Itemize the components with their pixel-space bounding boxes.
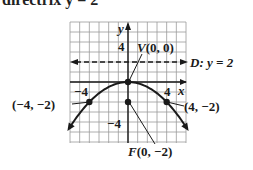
left-point bbox=[86, 99, 92, 105]
vertex-coords: (0, 0) bbox=[146, 40, 174, 55]
header-partial-text: directrix y = 2 bbox=[2, 0, 98, 9]
graph-svg bbox=[0, 0, 253, 170]
vertex-label: V(0, 0) bbox=[137, 41, 174, 54]
focus-prefix: F bbox=[128, 144, 137, 159]
vertex-leader bbox=[129, 54, 142, 81]
y-axis-label: y bbox=[118, 22, 124, 35]
parabola-diagram: directrix y = 2 y 4 V(0, 0) D: y = 2 −4 … bbox=[0, 0, 253, 170]
tick-y-neg: −4 bbox=[107, 117, 121, 130]
focus-label: F(0, −2) bbox=[128, 145, 172, 158]
focus-leader bbox=[129, 102, 155, 144]
directrix-right-arrow-icon bbox=[180, 59, 188, 65]
y-axis-arrow-icon bbox=[125, 22, 131, 30]
left-point-label: (−4, −2) bbox=[12, 98, 55, 111]
tick-x-neg: −4 bbox=[74, 85, 88, 98]
vertex-prefix: V bbox=[137, 40, 146, 55]
directrix-eq: y = 2 bbox=[207, 55, 233, 70]
directrix-prefix: D: bbox=[190, 55, 204, 70]
right-point bbox=[164, 99, 170, 105]
vertex-point bbox=[125, 79, 131, 85]
tick-x-pos: 4 bbox=[164, 85, 171, 98]
focus-coords: (0, −2) bbox=[137, 144, 173, 159]
directrix-label: D: y = 2 bbox=[190, 56, 233, 69]
focus-point bbox=[125, 99, 131, 105]
x-axis-label: x bbox=[178, 84, 185, 97]
right-point-label: (4, −2) bbox=[184, 100, 220, 113]
tick-y-pos: 4 bbox=[118, 40, 125, 53]
directrix-left-arrow-icon bbox=[70, 59, 78, 65]
